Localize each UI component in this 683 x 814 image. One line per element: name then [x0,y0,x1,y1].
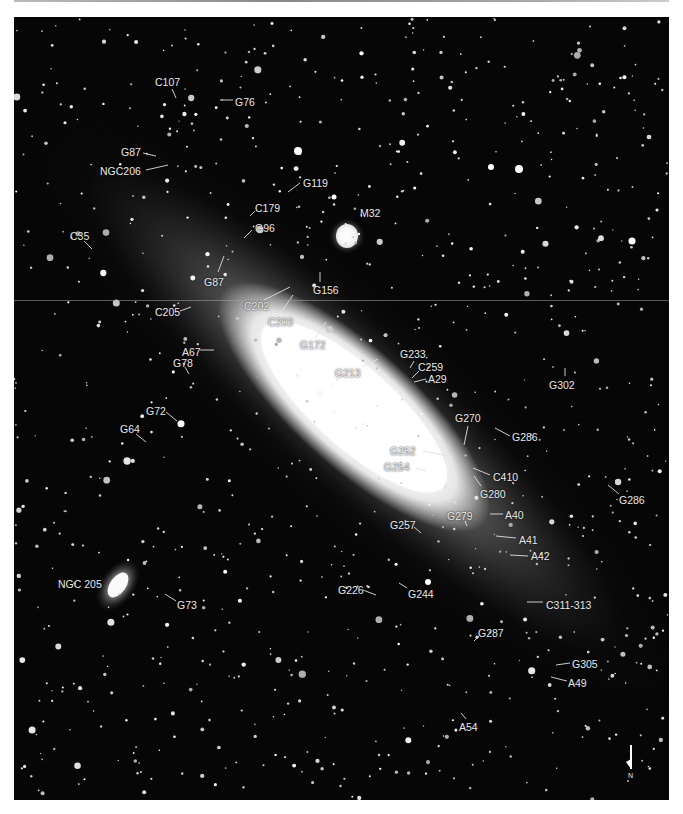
cluster-label: A41 [519,534,538,546]
cluster-label: G64 [120,423,140,435]
cluster-label: G78 [173,357,193,369]
cluster-label: G72 [146,405,166,417]
leader-line [608,485,619,494]
cluster-label: G156 [313,284,339,296]
leader-line [136,434,146,442]
leader-line [172,89,176,98]
north-label: N [628,772,633,779]
cluster-label: G87 [204,276,224,288]
top-rule [14,0,669,2]
cluster-label: G233 [400,348,426,360]
andromeda-photograph: C107G76G87NGC206G119C179G96M32C35G87C202… [14,17,669,800]
cluster-label: G305 [572,658,598,670]
cluster-label: A40 [505,509,524,521]
cluster-label: NGC 205 [58,578,102,590]
cluster-label: C311-313 [546,599,591,611]
cluster-label: C35 [70,230,89,242]
galaxy-m31 [14,38,669,777]
cluster-label: C179 [255,202,280,214]
cluster-label: C203 [268,316,293,328]
cluster-label: G270 [455,412,481,424]
leader-line [165,594,176,601]
cluster-label: C410 [493,471,518,483]
cluster-label: G279 [447,510,473,522]
cluster-label: G286 [619,494,645,506]
cluster-label: G119 [303,177,328,189]
cluster-label: G252 [390,445,416,457]
cluster-label: G302 [549,379,575,391]
cluster-label: G87 [121,146,141,158]
cluster-label: C259 [418,361,443,373]
cluster-label: G226 [338,584,364,596]
cluster-label: G76 [235,96,255,108]
cluster-label: G73 [177,599,197,611]
cluster-label: G244 [408,588,434,600]
cluster-label: G287 [478,627,504,639]
cluster-label: NGC206 [100,165,141,177]
cluster-label: A49 [568,677,587,689]
plate-seam [14,300,669,301]
leader-line [166,412,177,421]
cluster-label: C107 [155,76,180,88]
leader-line [363,590,376,595]
cluster-label: A42 [531,550,550,562]
cluster-label: C202 [244,300,269,312]
cluster-label: G172 [300,339,326,351]
cluster-label: G280 [480,488,506,500]
cluster-label: G213 [335,367,361,379]
cluster-label: M32 [360,207,380,219]
cluster-label: G257 [390,519,416,531]
north-arrow-icon [626,745,631,769]
cluster-label: A54 [459,721,478,733]
cluster-label: G286 [512,431,538,443]
leader-line [461,713,466,719]
cluster-label: C205 [155,306,180,318]
cluster-label: A29 [428,373,447,385]
leader-line [288,183,300,192]
cluster-label: G96 [255,222,275,234]
cluster-label: G254 [384,461,410,473]
